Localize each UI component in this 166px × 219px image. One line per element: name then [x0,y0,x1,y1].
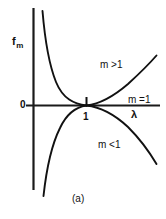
origin-label: 0 [20,100,26,110]
curve-m-less-than-1-right [87,106,157,165]
curve-m-less-than-1-left [44,106,87,197]
y-axis-label-subscript: m [16,41,23,50]
y-axis-label: fm [12,36,23,50]
curve-label-m-equals-1: m =1 [128,95,151,105]
x-axis-label: λ [131,109,137,120]
curve-m-greater-than-1-left [43,11,87,106]
figure-caption: (a) [72,194,84,204]
region-label-m-greater-than-1: m >1 [100,60,123,70]
region-label-m-less-than-1: m <1 [98,140,121,150]
x-tick-label-one: 1 [83,112,89,122]
figure-container: fm 0 1 m >1 m <1 m =1 λ (a) [0,0,166,219]
